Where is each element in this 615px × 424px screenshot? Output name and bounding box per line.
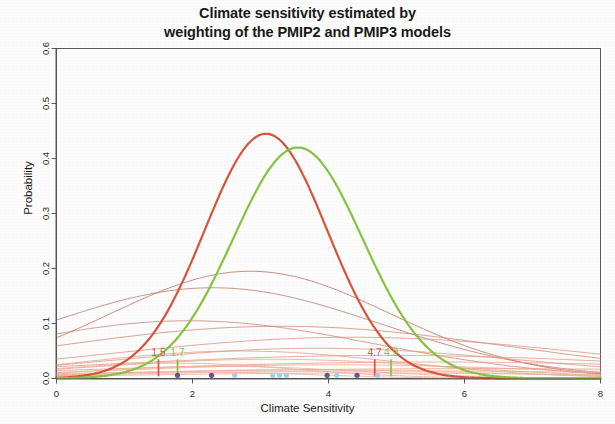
rug-point-7 [334, 373, 339, 378]
rug-point-8 [354, 373, 359, 378]
x-tick-label-0: 0 [46, 388, 68, 399]
axis-ticks [52, 49, 601, 384]
plot-frame [57, 49, 601, 379]
x-axis-title: Climate Sensitivity [0, 402, 615, 414]
rug-point-0 [175, 373, 180, 378]
main-density-curves [57, 134, 601, 379]
x-tick-label-3: 6 [454, 388, 476, 399]
y-tick-label-3: 0.3 [39, 200, 50, 226]
main-pdf-curve-1 [57, 148, 601, 379]
y-tick-label-2: 0.2 [39, 255, 50, 281]
y-tick-label-6: 0.6 [39, 35, 50, 61]
individual-pdf-curve-3 [57, 326, 601, 358]
individual-pdf-curve-2 [57, 321, 601, 374]
plot-canvas [0, 0, 615, 424]
rug-point-9 [375, 373, 380, 378]
chart-title-line-1: Climate sensitivity estimated by [0, 4, 615, 23]
rug-point-5 [284, 373, 289, 378]
individual-model-curves [57, 271, 601, 378]
rug-point-1 [209, 373, 214, 378]
chart-title-line-2: weighting of the PMIP2 and PMIP3 models [0, 23, 615, 42]
x-tick-label-4: 8 [590, 388, 612, 399]
x-tick-label-1: 2 [182, 388, 204, 399]
rug-point-4 [277, 373, 282, 378]
y-axis-title: Probability [22, 108, 34, 268]
rug-point-3 [270, 373, 275, 378]
rug-point-2 [232, 373, 237, 378]
y-tick-label-1: 0.1 [39, 310, 50, 336]
x-tick-label-2: 4 [318, 388, 340, 399]
rug-point-6 [325, 373, 330, 378]
y-tick-label-5: 0.5 [39, 90, 50, 116]
chart-figure: Climate sensitivity estimated by weighti… [0, 0, 615, 424]
y-tick-label-4: 0.4 [39, 145, 50, 171]
confidence-marker-label-3: 4.9 [380, 347, 402, 358]
confidence-marker-label-1: 1.7 [167, 347, 189, 358]
chart-title: Climate sensitivity estimated by weighti… [0, 4, 615, 42]
